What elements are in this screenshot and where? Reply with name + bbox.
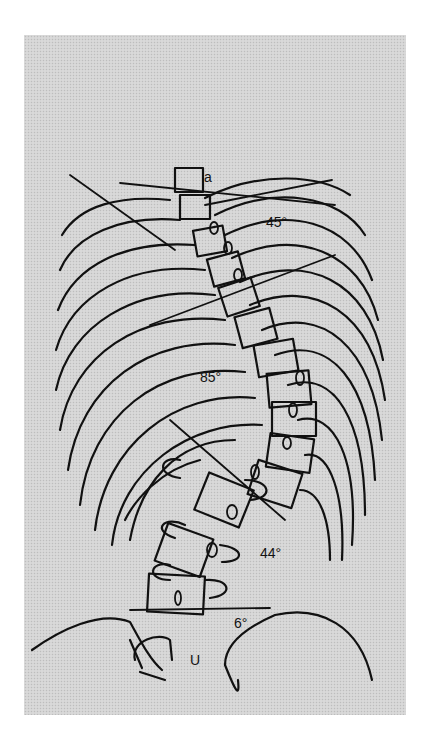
spine-diagram: 45° 85° 44° 6° a U xyxy=(0,0,422,734)
angle-label-45: 45° xyxy=(266,214,287,230)
sacrum-mark-u: U xyxy=(190,652,200,668)
cobb-lines xyxy=(70,175,335,610)
right-ribs xyxy=(205,178,385,560)
vertebra-mark-a: a xyxy=(204,169,212,185)
angle-label-44: 44° xyxy=(260,545,281,561)
pelvis xyxy=(32,613,372,691)
angle-label-85: 85° xyxy=(200,369,221,385)
angle-label-6: 6° xyxy=(234,615,247,631)
vertebrae xyxy=(147,168,316,614)
